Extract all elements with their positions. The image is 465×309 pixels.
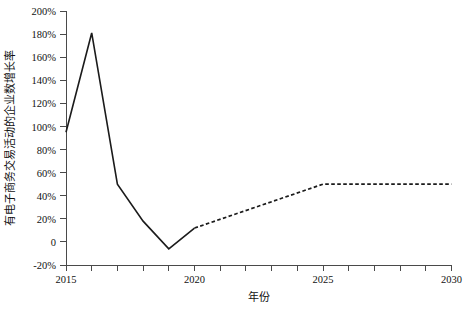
figure-caption [0,303,465,309]
x-axis-ticks [66,265,452,271]
growth-rate-line-chart: 200% 180% 160% 140% 120% 100% 80% 60% 40… [0,0,465,309]
y-axis-title: 有电子商务交易活动的企业数增长率 [3,50,16,226]
y-tick-label-0: 0 [51,237,56,248]
y-tick-label-200: 200% [32,6,57,17]
x-tick-label-2020: 2020 [184,274,205,285]
y-axis-group: 200% 180% 160% 140% 120% 100% 80% 60% 40… [3,6,66,271]
y-tick-label-180: 180% [32,29,57,40]
x-tick-label-2015: 2015 [56,274,77,285]
y-tick-label-60: 60% [37,168,57,179]
x-tick-label-2025: 2025 [313,274,334,285]
y-tick-label-160: 160% [32,52,57,63]
series-forecast-line [195,184,452,228]
x-axis-title: 年份 [248,290,270,303]
y-tick-label-neg20: -20% [33,260,56,271]
y-tick-label-100: 100% [32,122,57,133]
y-axis-ticks [60,11,66,265]
x-tick-label-2030: 2030 [441,274,462,285]
chart-container: 200% 180% 160% 140% 120% 100% 80% 60% 40… [0,0,465,309]
y-tick-label-40: 40% [37,191,57,202]
data-series-group [66,33,452,249]
y-tick-label-140: 140% [32,75,57,86]
y-tick-label-20: 20% [37,214,57,225]
series-historical-line [66,33,195,249]
x-axis-group: 2015 2020 2025 2030 年份 [56,265,463,303]
y-tick-label-80: 80% [37,145,57,156]
y-tick-label-120: 120% [32,98,57,109]
